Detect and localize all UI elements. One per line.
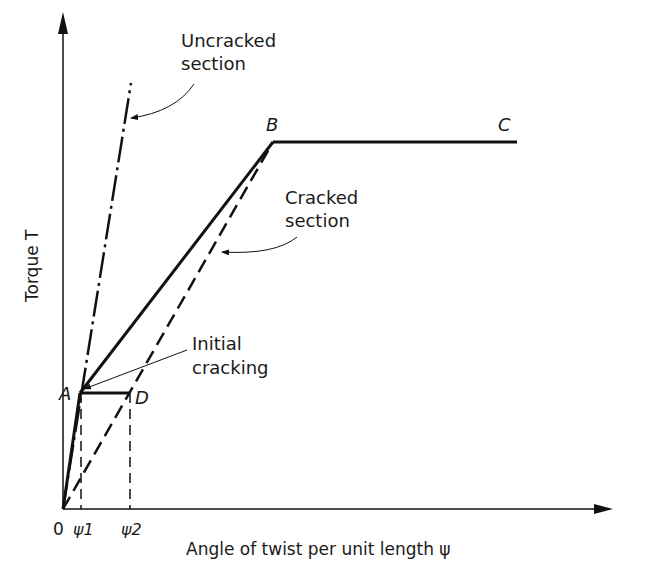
solid-segment-OA — [63, 393, 80, 509]
initial-cracking-label-2: cracking — [192, 357, 268, 378]
y-axis-label: Torque T — [22, 229, 42, 303]
y-axis-arrow-icon — [58, 12, 68, 34]
psi2-tick-label: ψ2 — [121, 520, 142, 539]
point-B-label: B — [266, 114, 278, 135]
uncracked-label-2: section — [181, 53, 246, 74]
cracked-label-1: Cracked — [285, 187, 358, 208]
uncracked-label-1: Uncracked — [181, 30, 276, 51]
cracked-label-2: section — [285, 210, 350, 231]
point-D-label: D — [135, 387, 149, 408]
point-A-label: A — [58, 383, 71, 404]
cracked-leader — [222, 237, 297, 252]
solid-segment-AB — [80, 142, 273, 393]
initial-cracking-label-1: Initial — [192, 333, 242, 354]
cracked-line — [63, 142, 273, 509]
uncracked-leader — [131, 84, 194, 118]
x-axis-arrow-icon — [594, 504, 613, 514]
x-axis-label: Angle of twist per unit length ψ — [186, 539, 451, 559]
origin-label: 0 — [53, 519, 64, 539]
torque-twist-diagram: Uncracked section Cracked section Initia… — [0, 0, 647, 574]
psi1-tick-label: ψ1 — [73, 520, 94, 539]
point-C-label: C — [498, 114, 511, 135]
